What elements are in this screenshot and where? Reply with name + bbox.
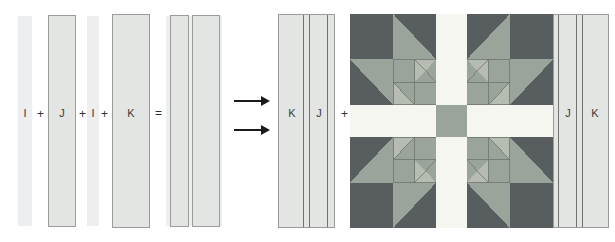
strip-label-k-1: K [112, 108, 150, 119]
plus-1: + [37, 108, 44, 120]
strip-set-right-divider-2 [576, 15, 577, 227]
strip-label-i-2: I [87, 108, 99, 119]
strip-label-j-1: J [48, 108, 76, 119]
strip-k-1 [112, 14, 150, 228]
strip-set-middle-divider-3 [327, 15, 328, 227]
strip-set-right-divider-3 [582, 15, 583, 227]
strip-set-right-label-k: K [588, 108, 602, 119]
plus-2: + [79, 108, 86, 120]
strip-set-right-label-j: J [561, 108, 575, 119]
strip-i-2 [87, 16, 99, 226]
strip-set-middle-divider-1 [303, 15, 304, 227]
result-strip-segment-b [192, 15, 220, 227]
arrow-shaft [234, 100, 262, 102]
strip-set-middle-label-k: K [285, 108, 299, 119]
strip-set-middle-divider-2 [309, 15, 310, 227]
strip-j-1 [48, 15, 76, 227]
diagram-canvas: I + J + I + K = K J + [0, 0, 615, 242]
quilt-block [350, 14, 553, 228]
strip-set-right [553, 14, 609, 228]
arrow-right-2 [234, 125, 272, 135]
plus-3: + [101, 108, 108, 120]
strip-i-1 [18, 16, 32, 226]
arrow-shaft [234, 129, 262, 131]
strip-label-i-1: I [18, 108, 32, 119]
arrow-head [261, 96, 270, 106]
plus-4: + [341, 108, 348, 120]
arrow-head [261, 125, 270, 135]
result-strip-segment-a [170, 15, 189, 227]
equals-sign: = [155, 107, 162, 119]
strip-set-right-divider-1 [558, 15, 559, 227]
strip-set-middle-label-j: J [312, 108, 326, 119]
arrow-right-1 [234, 96, 272, 106]
